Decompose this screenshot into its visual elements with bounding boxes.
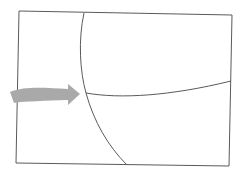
diagram-canvas <box>0 0 244 176</box>
diagram-svg <box>0 0 244 176</box>
